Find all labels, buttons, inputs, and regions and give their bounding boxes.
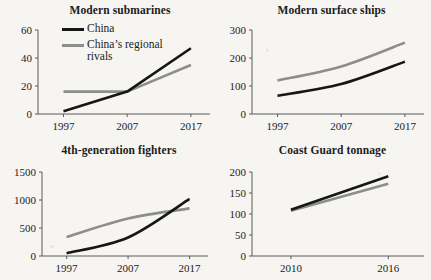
y-tick-label: 0 [27,108,33,120]
y-tick-label: 60 [21,24,33,36]
x-tick-label: 2010 [280,262,303,274]
chart-svg: 0100200300199720072017 [218,24,431,140]
legend-swatch-china-icon [62,28,84,31]
x-tick-label: 2007 [330,120,353,132]
series-line-china [291,176,388,210]
y-tick-label: 50 [235,229,247,241]
y-tick-label: 1500 [14,166,37,178]
legend-item-china: China [62,22,171,35]
panel-coast-guard-tonnage: Coast Guard tonnage 05010015020020102016 [216,140,431,280]
x-tick-label: 2007 [116,120,138,132]
y-tick-label: 150 [230,187,247,199]
y-tick-label: 500 [20,222,37,234]
axis-lines [42,172,208,256]
y-tick-label: 0 [241,250,247,262]
y-tick-label: 100 [230,80,247,92]
legend: China China’s regional rivals [62,22,171,66]
x-tick-label: 2017 [179,262,202,274]
panel-modern-surface-ships: Modern surface ships 0100200300199720072… [216,0,431,140]
y-tick-label: 300 [230,24,247,36]
axis-lines [252,30,424,114]
y-tick-label: 200 [230,52,247,64]
panel-title: Modern submarines [0,4,216,16]
series-line-rivals [63,65,190,92]
y-tick-label: 200 [230,166,247,178]
panel-title: Coast Guard tonnage [216,144,431,156]
legend-swatch-rivals-icon [62,44,84,47]
plot-area: 05010015020020102016 [218,166,431,280]
y-tick-label: 100 [230,208,247,220]
x-tick-label: 2017 [394,120,417,132]
panel-4th-generation-fighters: 4th-generation fighters 0500100015001997… [0,140,216,280]
series-line-rivals [291,184,388,211]
legend-label-rivals: China’s regional rivals [87,38,171,63]
chart-grid: Modern submarines 0204060199720072017 Ch… [0,0,431,280]
x-tick-label: 1997 [52,120,74,132]
panel-modern-submarines: Modern submarines 0204060199720072017 Ch… [0,0,216,140]
plot-area: 0100200300199720072017 [218,24,431,140]
legend-label-china: China [87,22,114,35]
x-tick-label: 2016 [377,262,400,274]
chart-svg: 05010015020020102016 [218,166,431,280]
chart-svg: 050010001500199720072017 [8,166,218,280]
y-tick-label: 1000 [14,194,37,206]
axis-lines [252,172,424,256]
legend-item-rivals: China’s regional rivals [62,38,171,63]
x-tick-label: 1997 [266,120,289,132]
y-tick-label: 40 [21,52,33,64]
series-line-rivals [277,43,404,81]
y-tick-label: 0 [241,108,247,120]
x-tick-label: 2007 [117,262,139,274]
y-tick-label: 0 [31,250,37,262]
plot-area: 050010001500199720072017 [8,166,218,280]
panel-title: Modern surface ships [216,4,431,16]
x-tick-label: 1997 [56,262,78,274]
x-tick-label: 2017 [180,120,203,132]
panel-title: 4th-generation fighters [0,144,216,156]
series-line-china [67,199,190,253]
y-tick-label: 20 [21,80,33,92]
